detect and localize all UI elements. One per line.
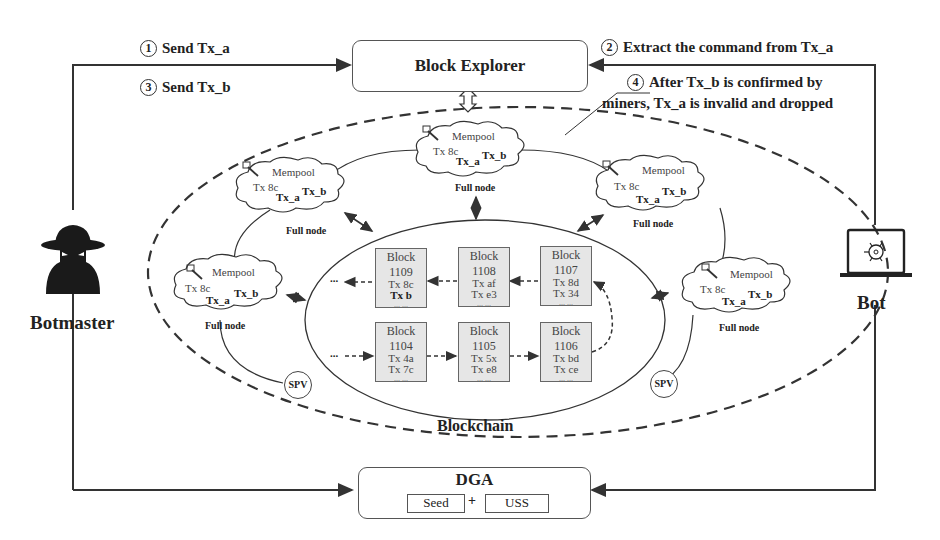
botmaster-label: Botmaster: [30, 312, 114, 334]
step-4-label-line2: miners, Tx_a is invalid and dropped: [602, 95, 833, 112]
chain-ellipsis-top: ...: [330, 272, 338, 284]
dga-box: DGA Seed + USS: [358, 467, 591, 519]
spv-node-left: SPV: [284, 371, 312, 399]
chain-ellipsis-bottom: ...: [330, 347, 338, 359]
block-1104: Block 1104 Tx 4a Tx 7c ... ...: [375, 322, 427, 382]
blockchain-label: Blockchain: [437, 417, 513, 435]
seed-box: Seed: [407, 494, 465, 513]
spy-icon: [41, 225, 105, 294]
block-1108: Block 1108 Tx af Tx e3 ... ...: [458, 247, 510, 307]
block-1106: Block 1106 Tx bd Tx ce ... ...: [540, 322, 592, 382]
bot-label: Bot: [857, 292, 886, 314]
step-2-label: 2Extract the command from Tx_a: [601, 39, 833, 56]
block-explorer-title: Block Explorer: [353, 41, 587, 91]
block-explorer-box: Block Explorer: [352, 40, 588, 92]
uss-box: USS: [485, 494, 549, 513]
step-1-label: 1Send Tx_a: [140, 40, 230, 57]
step-4-label-line1: 4After Tx_b is confirmed by: [627, 74, 823, 91]
block-1109: Block 1109 Tx 8c Tx b ... ...: [375, 248, 427, 308]
spv-node-right: SPV: [650, 370, 678, 398]
step-3-label: 3Send Tx_b: [140, 79, 231, 96]
plus-sign: +: [468, 493, 476, 509]
dga-title: DGA: [359, 470, 590, 490]
block-1105: Block 1105 Tx 5x Tx e8 ... ...: [458, 322, 510, 382]
block-1107: Block 1107 Tx 8d Tx 34 ... ...: [540, 246, 592, 306]
laptop-bug-icon: [840, 230, 912, 277]
